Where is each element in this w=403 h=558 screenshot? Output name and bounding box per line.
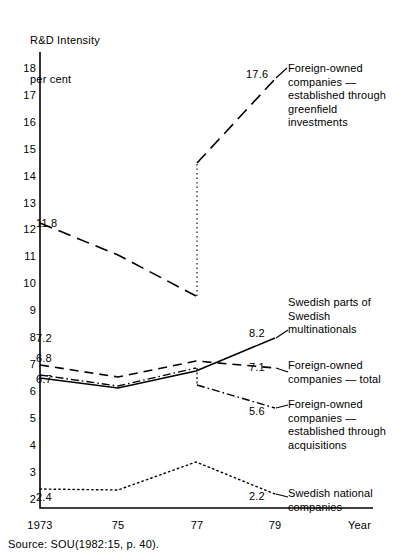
series-label-total: Foreign-owned companies — total [288,359,381,386]
series-swedish-national [40,462,275,494]
data-label-7-2: 7.2 [36,332,52,344]
data-label-8-2: 8.2 [249,327,265,339]
data-label-6-8: 6.8 [36,352,52,364]
source-note: Source: SOU(1982:15, p. 40). [8,538,159,550]
leader-multinationals [276,330,288,338]
data-label-2-2: 2.2 [249,490,265,502]
chart-figure: R&D Intensity per cent 18 17 16 15 14 13… [0,0,403,558]
leader-total [276,368,288,372]
data-label-11-8: 11.8 [36,217,57,229]
data-label-2-4: 2.4 [36,491,52,503]
series-label-acquisitions: Foreign-owned companies — established th… [288,398,386,452]
series-greenfield-segment-2 [197,79,275,163]
series-label-national: Swedish national companies [288,487,373,514]
leader-greenfield [276,68,287,78]
series-foreign-owned-total [40,361,275,377]
series-label-greenfield: Foreign-owned companies — established th… [288,62,386,130]
data-label-5-6: 5.6 [249,405,265,417]
series-label-multinationals: Swedish parts of Swedish multinationals [288,296,371,337]
data-label-6-7: 6.7 [36,373,52,385]
series-greenfield-segment-1 [40,223,196,296]
leader-national [276,494,288,497]
data-label-7-1: 7.1 [249,361,265,373]
leader-acquisitions [276,405,288,408]
data-label-17-6: 17.6 [246,68,268,80]
